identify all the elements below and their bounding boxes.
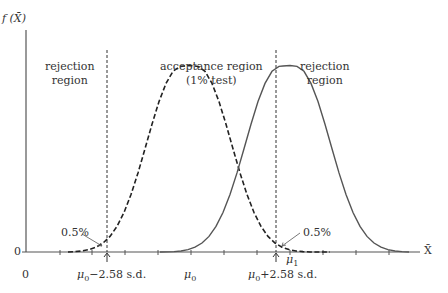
tail-right-label: 0.5% [303,226,331,240]
h1-curve [160,66,409,253]
x-tick-mu1: μ1 [286,253,298,271]
reject-right-label: rejectionregion [300,60,350,88]
reject-left-label: rejectionregion [45,60,95,88]
x-tick-mu0-plus: μ0+2.58 s.d. [248,268,317,286]
y-zero-label: 0 [14,245,21,259]
x-axis-label: X̄ [424,244,432,258]
arrow-critical-left [104,253,110,262]
pointer-right [282,233,300,246]
chart-canvas [0,0,448,293]
x-tick-mu0-minus: μ0−2.58 s.d. [77,268,146,286]
tail-left-label: 0.5% [61,226,89,240]
arrow-critical-right [273,253,279,262]
x-tick-mu0: μ0 [184,268,196,286]
accept-label: acceptance region(1% test) [160,60,263,88]
y-axis-label: f (X̄) [2,12,26,26]
h0-curve [68,66,330,253]
x-zero-label: 0 [22,268,29,282]
